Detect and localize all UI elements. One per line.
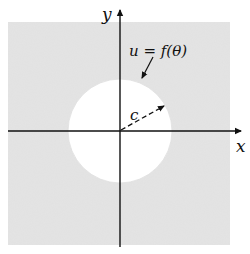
boundary-condition-label: u = f(θ) [129,42,187,60]
radius-label: c [130,106,139,124]
y-axis-label: y [101,4,112,24]
x-axis-label: x [236,136,246,156]
diagram-canvas: x y c u = f(θ) [0,0,250,254]
